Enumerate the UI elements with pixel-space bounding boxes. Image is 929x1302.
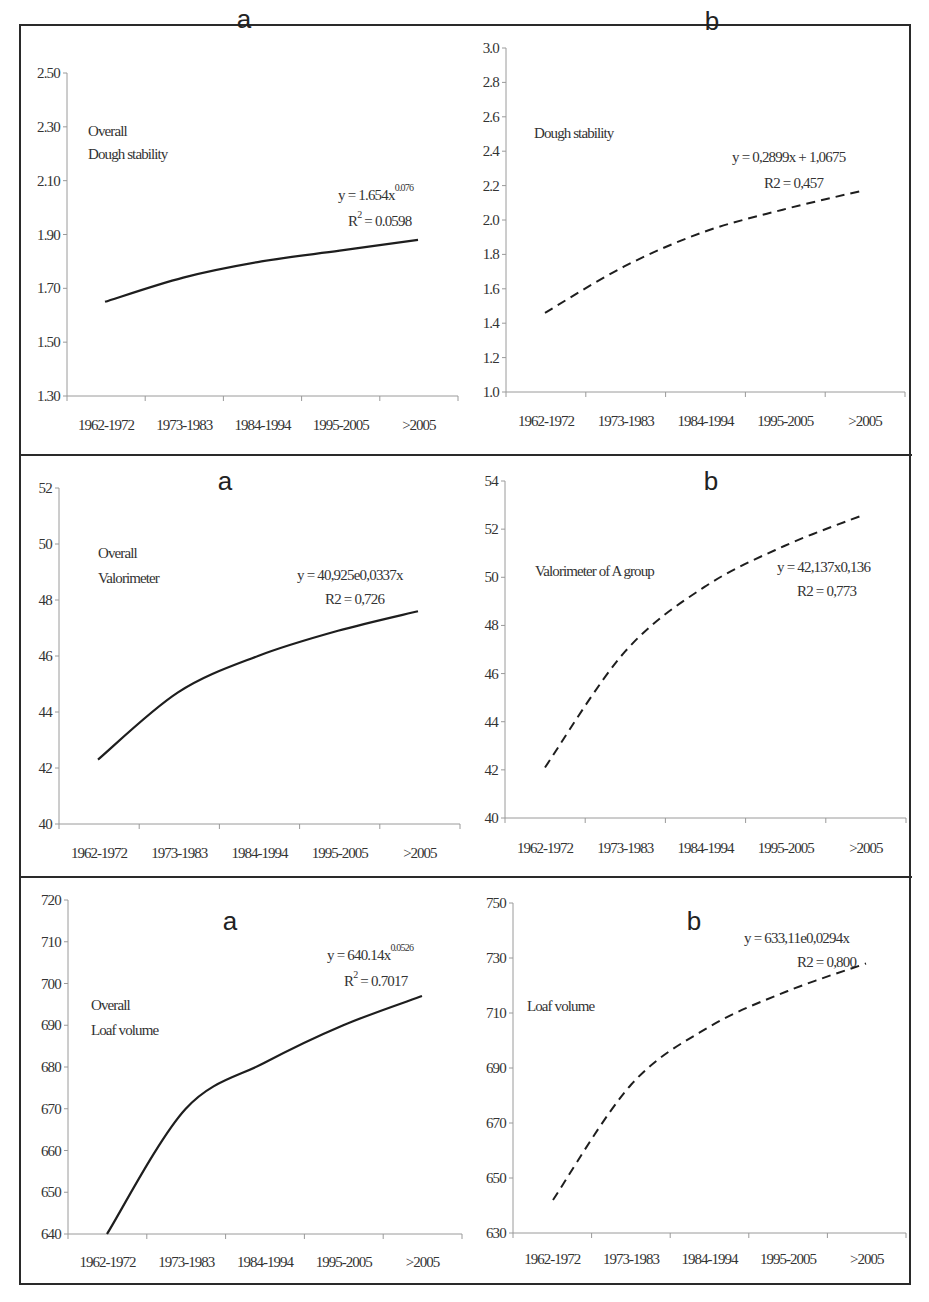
x-category-label: 1962-1972 <box>79 1254 135 1270</box>
x-category-label: 1995-2005 <box>760 1251 816 1267</box>
x-category-label: 1962-1972 <box>517 840 573 856</box>
y-tick-label: 650 <box>41 1184 61 1200</box>
x-category-label: >2005 <box>850 1251 884 1267</box>
y-tick-label: 690 <box>486 1060 506 1076</box>
series-annotation: Loaf volume <box>527 998 595 1014</box>
y-tick-label: 54 <box>485 473 500 489</box>
x-category-label: 1984-1994 <box>678 840 735 856</box>
panel-letter: b <box>705 6 719 36</box>
x-category-label: 1973-1983 <box>598 413 654 429</box>
trend-equation: y = 0,2899x + 1,0675 <box>732 149 846 165</box>
y-tick-label: 40 <box>485 810 499 826</box>
chart-panel-valorimeter-a: 525048464442401962-19721973-19831984-199… <box>39 466 460 861</box>
x-category-label: 1973-1983 <box>603 1251 659 1267</box>
series-annotation: Overall <box>88 123 127 139</box>
series-annotation: Loaf volume <box>91 1022 159 1038</box>
y-tick-label: 2.10 <box>37 173 60 189</box>
trend-line <box>98 611 418 759</box>
x-category-label: 1973-1983 <box>597 840 653 856</box>
y-tick-label: 3.0 <box>483 40 500 56</box>
trend-line <box>545 191 862 313</box>
series-annotation: Overall <box>98 545 137 561</box>
x-category-label: >2005 <box>849 840 883 856</box>
trend-equation: y = 42,137x0,136 <box>777 559 871 575</box>
y-tick-label: 720 <box>41 892 61 908</box>
y-tick-label: 1.70 <box>37 280 60 296</box>
y-tick-label: 42 <box>485 762 499 778</box>
trend-line <box>553 964 866 1201</box>
y-tick-label: 50 <box>39 536 53 552</box>
x-category-label: 1973-1983 <box>151 845 207 861</box>
y-tick-label: 640 <box>41 1226 61 1242</box>
chart-panel-dough-a: 2.502.302.101.901.701.501.301962-1972197… <box>37 4 458 433</box>
y-tick-label: 2.6 <box>483 109 501 125</box>
x-category-label: 1973-1983 <box>158 1254 214 1270</box>
panels-canvas: 2.502.302.101.901.701.501.301962-1972197… <box>0 0 929 1302</box>
y-tick-label: 2.8 <box>483 74 500 90</box>
series-annotation: Dough stability <box>534 125 615 141</box>
r-squared: R2 = 0.7017 <box>344 969 409 989</box>
trend-equation: y = 1.654x0.076 <box>338 182 414 203</box>
x-category-label: 1984-1994 <box>232 845 289 861</box>
y-tick-label: 700 <box>41 976 61 992</box>
y-tick-label: 680 <box>41 1059 61 1075</box>
chart-panel-dough-b: 3.02.82.62.42.22.01.81.61.41.21.01962-19… <box>483 6 905 429</box>
trend-equation: y = 40,925e0,0337x <box>297 567 404 583</box>
y-tick-label: 2.0 <box>483 212 500 228</box>
y-tick-label: 650 <box>486 1170 506 1186</box>
y-tick-label: 48 <box>39 592 53 608</box>
y-tick-label: 44 <box>485 714 500 730</box>
y-tick-label: 630 <box>486 1225 506 1241</box>
x-category-label: 1984-1994 <box>682 1251 739 1267</box>
x-category-label: 1962-1972 <box>71 845 127 861</box>
y-tick-label: 1.4 <box>483 315 501 331</box>
series-annotation: Overall <box>91 997 130 1013</box>
y-tick-label: 1.2 <box>483 350 500 366</box>
r-squared: R2 = 0,773 <box>797 583 857 599</box>
r-squared: R2 = 0,726 <box>325 591 386 607</box>
x-category-label: 1984-1994 <box>678 413 735 429</box>
x-category-label: 1962-1972 <box>524 1251 580 1267</box>
y-tick-label: 1.6 <box>483 281 501 297</box>
y-tick-label: 48 <box>485 617 499 633</box>
y-tick-label: 1.30 <box>37 388 60 404</box>
y-tick-label: 1.90 <box>37 227 60 243</box>
x-category-label: 1995-2005 <box>758 840 814 856</box>
y-tick-label: 52 <box>485 521 499 537</box>
y-tick-label: 710 <box>486 1005 506 1021</box>
panel-letter: a <box>223 906 238 936</box>
y-tick-label: 52 <box>39 480 53 496</box>
y-tick-label: 670 <box>486 1115 506 1131</box>
x-category-label: 1984-1994 <box>237 1254 294 1270</box>
chart-panel-loaf-b: 7507307106906706506301962-19721973-19831… <box>486 895 906 1267</box>
r-squared: R2 = 0,457 <box>764 175 825 191</box>
y-tick-label: 50 <box>485 569 499 585</box>
y-tick-label: 1.8 <box>483 246 500 262</box>
x-category-label: 1973-1983 <box>156 417 212 433</box>
y-tick-label: 2.4 <box>483 143 501 159</box>
y-tick-label: 42 <box>39 760 53 776</box>
x-category-label: 1995-2005 <box>757 413 813 429</box>
chart-panel-valorimeter-b: 54525048464442401962-19721973-19831984-1… <box>485 466 906 856</box>
y-tick-label: 750 <box>486 895 506 911</box>
y-tick-label: 44 <box>39 704 54 720</box>
panel-letter: b <box>687 906 701 936</box>
x-category-label: 1995-2005 <box>316 1254 372 1270</box>
x-category-label: 1962-1972 <box>78 417 134 433</box>
x-category-label: >2005 <box>402 417 436 433</box>
y-tick-label: 46 <box>485 666 500 682</box>
panel-letter: a <box>218 466 233 496</box>
x-category-label: 1995-2005 <box>313 417 369 433</box>
y-tick-label: 710 <box>41 934 61 950</box>
y-tick-label: 670 <box>41 1101 61 1117</box>
r-squared: R2 = 0.0598 <box>348 209 412 229</box>
trend-equation: y = 633,11e0,0294x <box>744 930 850 946</box>
x-category-label: >2005 <box>848 413 882 429</box>
y-tick-label: 660 <box>41 1143 61 1159</box>
y-tick-label: 46 <box>39 648 54 664</box>
series-annotation: Dough stability <box>88 146 169 162</box>
r-squared: R2 = 0,800 <box>797 954 857 970</box>
x-category-label: >2005 <box>406 1254 440 1270</box>
panel-letter: b <box>704 466 718 496</box>
y-tick-label: 1.0 <box>483 384 500 400</box>
